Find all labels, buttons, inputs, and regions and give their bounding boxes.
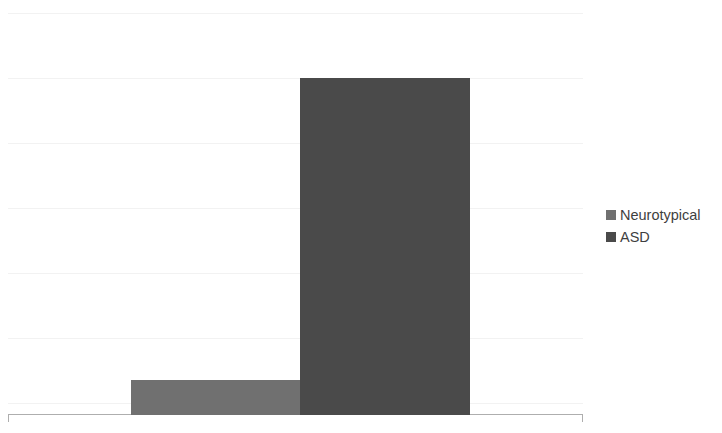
- x-axis-tick-start: [8, 415, 9, 422]
- legend-swatch-icon: [606, 210, 616, 220]
- legend-item-label: Neurotypical: [620, 208, 701, 223]
- legend-swatch-icon: [606, 232, 616, 242]
- chart-legend: NeurotypicalASD: [606, 204, 718, 248]
- bar-chart: NeurotypicalASD: [0, 0, 722, 433]
- x-axis-tick-end: [582, 415, 583, 422]
- legend-item-neurotypical[interactable]: Neurotypical: [606, 204, 718, 226]
- legend-item-asd[interactable]: ASD: [606, 226, 718, 248]
- legend-item-label: ASD: [620, 230, 650, 245]
- bar-neurotypical[interactable]: [131, 380, 300, 415]
- bar-asd[interactable]: [300, 78, 470, 415]
